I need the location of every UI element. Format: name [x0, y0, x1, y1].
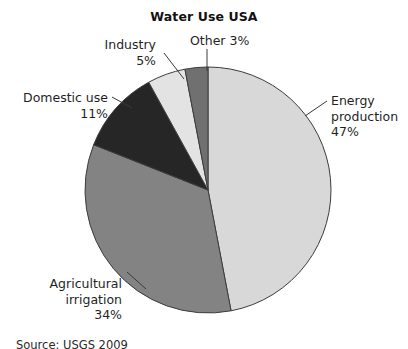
- leader-line-energy: [305, 101, 327, 116]
- slice-label-domestic-use: Domestic use 11%: [4, 90, 108, 121]
- slice-label-energy-production: Energy production 47%: [331, 93, 407, 140]
- source-note: Source: USGS 2009: [16, 338, 128, 349]
- pie-chart-figure: Water Use USA Energy production 47% Othe…: [0, 0, 408, 349]
- slice-label-industry: Industry 5%: [88, 37, 156, 68]
- pie-slice-energy-production: [208, 67, 331, 311]
- slice-label-other: Other 3%: [190, 33, 262, 49]
- slice-label-agricultural-irrigation: Agricultural irrigation 34%: [18, 276, 122, 323]
